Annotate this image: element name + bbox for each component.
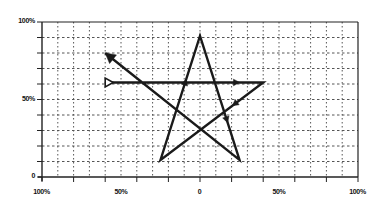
y-axis-label: 50% (22, 95, 35, 102)
y-axis-label: 0 (31, 172, 35, 179)
direction-arrow-icon (234, 79, 240, 86)
direction-arrow-icon (223, 116, 229, 123)
x-axis-label: 0 (198, 188, 202, 195)
x-axis-label: 100% (349, 188, 366, 195)
x-axis-label: 100% (33, 188, 50, 195)
start-triangle-icon (105, 78, 113, 87)
x-axis-label: 50% (272, 188, 285, 195)
y-axis-label: 100% (18, 17, 35, 24)
x-axis-label: 50% (114, 188, 127, 195)
pentagram-diagram (0, 0, 380, 211)
grid-lines (42, 22, 358, 177)
